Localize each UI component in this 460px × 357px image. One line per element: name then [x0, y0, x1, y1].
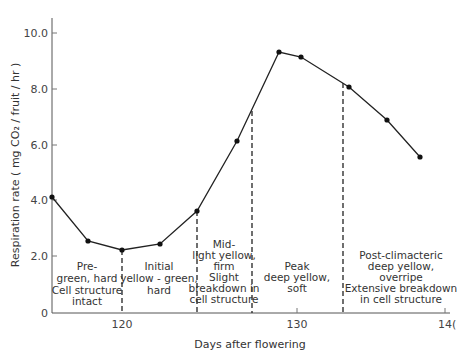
stage-label-peak: Peak deep yellow, soft	[264, 260, 330, 294]
stage-label-initial: Initial yellow - green, hard	[120, 260, 198, 296]
y-tick-label: 4.0	[31, 194, 49, 207]
y-axis-title: Respiration rate ( mg CO₂ / fruit / hr )	[9, 63, 22, 268]
respiration-chart: 0 2.0 4.0 6.0 8.0 10.0 120 130 14( Days …	[0, 0, 460, 357]
y-tick-label: 10.0	[24, 27, 49, 40]
x-axis-title: Days after flowering	[194, 338, 305, 351]
data-points	[49, 49, 422, 252]
svg-text:Pre-: Pre-	[77, 260, 98, 272]
respiration-line	[52, 52, 420, 250]
svg-text:Initial: Initial	[144, 260, 173, 272]
y-tick-label: 6.0	[31, 139, 49, 152]
x-ticks	[297, 308, 445, 313]
svg-text:green, hard: green, hard	[57, 272, 118, 284]
svg-text:cell structure: cell structure	[189, 293, 258, 305]
svg-text:hard: hard	[147, 284, 171, 296]
y-tick-label: 8.0	[31, 83, 49, 96]
svg-text:soft: soft	[287, 282, 307, 294]
stage-label-post-climacteric: Post-climacteric deep yellow, overripe E…	[345, 249, 458, 305]
stage-label-pre-green: Pre- green, hard Cell structure intact	[52, 260, 123, 307]
stage-label-mid: Mid- light yellow, firm Slight breakdown…	[189, 238, 260, 305]
svg-text:in cell structure: in cell structure	[360, 293, 442, 305]
y-ticks	[52, 33, 57, 256]
y-tick-label: 0	[41, 307, 48, 320]
x-tick-label: 14(	[438, 318, 456, 331]
y-tick-label: 2.0	[31, 250, 49, 263]
x-tick-label: 120	[112, 318, 133, 331]
chart-canvas: 0 2.0 4.0 6.0 8.0 10.0 120 130 14( Days …	[0, 0, 460, 357]
svg-text:yellow - green,: yellow - green,	[120, 272, 198, 284]
svg-text:intact: intact	[72, 295, 102, 307]
x-tick-label: 130	[287, 318, 308, 331]
